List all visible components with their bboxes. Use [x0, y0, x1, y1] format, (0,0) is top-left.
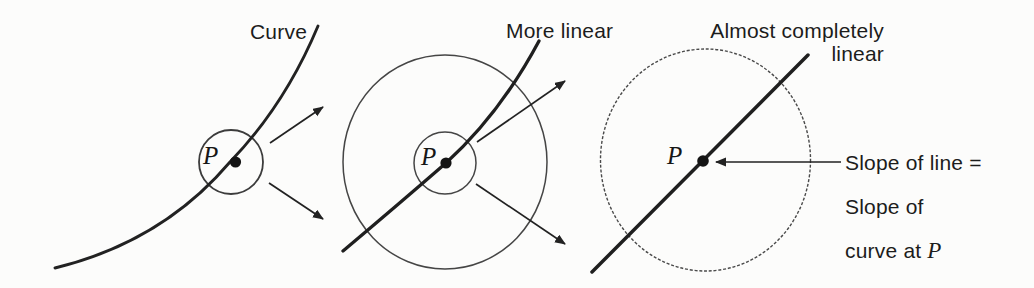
point-label-middle: P — [421, 144, 436, 169]
point-dot-middle — [440, 157, 451, 168]
curve-label: Curve — [250, 20, 307, 43]
point-label-left: P — [203, 143, 218, 168]
slope-annotation: Slope of line = Slope of curve at P — [845, 130, 982, 284]
more-linear-label: More linear — [506, 19, 613, 42]
local-linearity-figure: Curve More linear Almost completely line… — [0, 0, 1034, 288]
zoom-arrow-left-lower-icon — [269, 183, 323, 219]
slope-annotation-line1: Slope of line = — [845, 152, 982, 174]
point-dot-right — [697, 155, 709, 167]
slope-annotation-line3: curve at P — [845, 240, 982, 262]
slope-annotation-line2: Slope of — [845, 196, 982, 218]
slope-annotation-line3-text: curve at — [845, 239, 927, 262]
point-label-right: P — [667, 143, 682, 168]
almost-linear-label: Almost completely linear — [710, 19, 884, 65]
curve-left — [55, 26, 318, 268]
zoom-arrow-left-upper-icon — [270, 107, 323, 143]
point-symbol: P — [927, 238, 941, 263]
curve-middle — [343, 41, 539, 251]
point-dot-left — [230, 156, 241, 167]
